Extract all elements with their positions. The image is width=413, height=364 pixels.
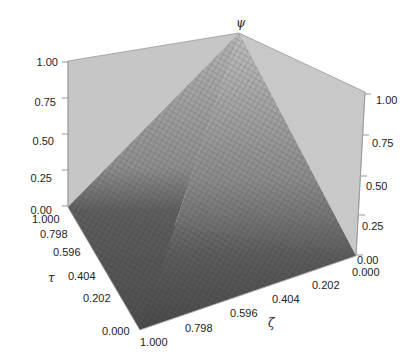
zeta-tick: 1.000 bbox=[140, 336, 168, 348]
tau-tick: 0.404 bbox=[68, 270, 96, 282]
zeta-tick: 0.798 bbox=[185, 322, 213, 334]
z-tick-right: 0.50 bbox=[366, 180, 387, 192]
tau-tick: 1.000 bbox=[32, 213, 60, 225]
tau-tick: 0.596 bbox=[53, 246, 81, 258]
zeta-tick: 0.596 bbox=[230, 307, 258, 319]
tau-tick: 0.000 bbox=[102, 325, 130, 337]
zeta-tick: 0.202 bbox=[312, 279, 340, 291]
surface-plot: 1.00 0.75 0.50 0.25 0.00 1.00 0.75 0.50 … bbox=[0, 0, 413, 364]
zeta-tick: 0.000 bbox=[352, 266, 380, 278]
zeta-tick: 0.404 bbox=[272, 293, 300, 305]
tau-axis-label: τ bbox=[48, 271, 55, 285]
left-z-ticks: 1.00 0.75 0.50 0.25 0.00 bbox=[31, 56, 68, 216]
z-tick-left: 0.25 bbox=[31, 172, 52, 184]
tau-tick: 0.202 bbox=[83, 292, 111, 304]
z-tick-left: 0.50 bbox=[33, 135, 54, 147]
z-tick-right: 1.00 bbox=[376, 94, 397, 106]
psi-axis-label: ψ bbox=[236, 16, 246, 30]
z-tick-right: 0.75 bbox=[372, 137, 393, 149]
z-tick-right: 0.00 bbox=[357, 254, 378, 266]
z-tick-left: 0.75 bbox=[35, 96, 56, 108]
tau-tick: 0.798 bbox=[40, 228, 68, 240]
z-tick-right: 0.25 bbox=[362, 220, 383, 232]
zeta-axis-label: ζ bbox=[268, 316, 276, 330]
z-tick-left: 1.00 bbox=[37, 56, 58, 68]
